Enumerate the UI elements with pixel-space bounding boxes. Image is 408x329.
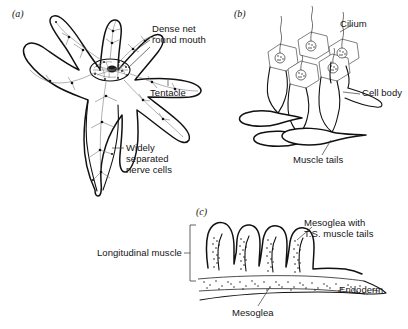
label-cell-body: Cell body bbox=[362, 88, 402, 99]
label-endoderm: Endoderm bbox=[339, 285, 383, 296]
label-tentacle: Tentacle bbox=[150, 88, 186, 99]
label-nerve-line1: Widely bbox=[126, 143, 155, 154]
panel-c-id: (c) bbox=[196, 206, 207, 217]
label-mesoglea-ts-line1: Mesoglea with bbox=[304, 218, 365, 229]
cell-body-1b bbox=[278, 71, 287, 113]
panel-a-id: (a) bbox=[12, 8, 24, 19]
leader-mesoglea-bottom bbox=[258, 287, 270, 306]
panel-b-id: (b) bbox=[234, 8, 246, 19]
mesoglea-band-top bbox=[198, 276, 364, 281]
label-mesoglea-ts-line2: T.S. muscle tails bbox=[304, 229, 373, 240]
label-muscle-tails: Muscle tails bbox=[293, 155, 343, 166]
figure-container: (a) (b) (c) Dense net round mouth Tentac… bbox=[0, 0, 408, 329]
cell-body-2 bbox=[288, 84, 299, 134]
label-nerve-line3: nerve cells bbox=[126, 165, 172, 176]
label-longitudinal-muscle: Longitudinal muscle bbox=[97, 248, 182, 259]
label-nerve-line2: separated bbox=[126, 154, 169, 165]
cell-body-3 bbox=[319, 77, 332, 132]
label-mesoglea: Mesoglea bbox=[232, 308, 274, 319]
figure-drawing bbox=[0, 0, 408, 329]
cell-body-3b bbox=[332, 81, 340, 132]
leader-cell-body bbox=[343, 92, 360, 94]
muscle-tail-3 bbox=[282, 128, 366, 145]
label-dense-net-line2: round mouth bbox=[152, 35, 206, 46]
cell-body-1 bbox=[267, 67, 278, 113]
muscle-tail-1 bbox=[239, 111, 302, 127]
label-dense-net-line1: Dense net bbox=[152, 24, 196, 35]
cell-body-2b bbox=[299, 88, 309, 134]
label-cilium: Cilium bbox=[340, 19, 367, 30]
longitudinal-muscle-bracket bbox=[190, 225, 196, 281]
